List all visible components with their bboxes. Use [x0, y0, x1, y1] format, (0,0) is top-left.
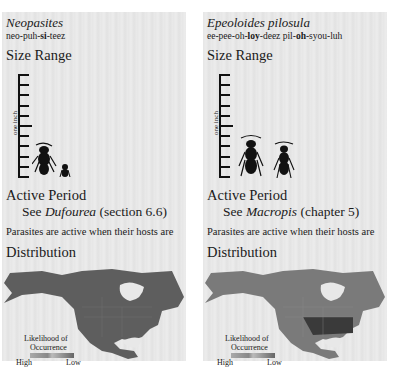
map-legend: Likelihood of Occurrence High Low: [209, 334, 289, 364]
ruler-tick: [18, 105, 29, 107]
ruler-tick: [219, 145, 230, 147]
pron-part: -teez: [47, 31, 65, 41]
ruler-tick: [219, 176, 230, 178]
ruler-tick: [219, 135, 230, 137]
active-period-heading: Active Period: [6, 187, 86, 204]
species-panel-neopasites: Neopasites neo-puh-si-teez Size Range on…: [2, 12, 186, 361]
ruler-tick: [18, 166, 29, 168]
see-genus-link[interactable]: Macropis: [246, 204, 297, 219]
ruler-tick: [219, 105, 230, 107]
ruler-tick: [18, 176, 29, 178]
ruler-tick: [18, 84, 29, 86]
ruler-tick: [219, 166, 230, 168]
ruler-tick: [18, 115, 29, 117]
active-note: Parasites are active when their hosts ar…: [207, 226, 374, 237]
species-name: Neopasites: [6, 15, 63, 31]
species-panel-epeoloides: Epeoloides pilosula ee-pee-oh-loy-deez p…: [203, 12, 387, 361]
see-suffix: (chapter 5): [297, 204, 359, 219]
ruler-label: one inch: [11, 111, 19, 135]
ruler-tick: [18, 74, 29, 76]
see-prefix: See: [223, 204, 246, 219]
see-reference: See Macropis (chapter 5): [223, 204, 359, 220]
pron-part: -deez pil-: [260, 31, 296, 41]
active-note: Parasites are active when their hosts ar…: [6, 226, 173, 237]
pron-part: neo-puh-: [6, 31, 40, 41]
ruler-tick: [18, 135, 29, 137]
ruler-tick: [219, 115, 230, 117]
legend-low: Low: [267, 358, 282, 367]
ruler-tick: [18, 156, 29, 158]
pron-part: -syou-luh: [306, 31, 342, 41]
ruler-label: one inch: [212, 111, 220, 135]
active-period-heading: Active Period: [207, 187, 287, 204]
ruler-tick: [219, 74, 230, 76]
ruler-tick: [219, 156, 230, 158]
bee-silhouette-female-icon: [32, 142, 92, 182]
pronunciation: neo-puh-si-teez: [6, 31, 65, 41]
legend-high: High: [16, 358, 32, 367]
pronunciation: ee-pee-oh-loy-deez pil-oh-syou-luh: [207, 31, 342, 41]
ruler-tick: [219, 94, 230, 96]
size-range-heading: Size Range: [207, 47, 273, 64]
ruler-tick: [219, 125, 233, 127]
see-reference: See Dufourea (section 6.6): [22, 204, 167, 220]
distribution-heading: Distribution: [207, 244, 277, 261]
ruler-tick: [18, 125, 32, 127]
species-name: Epeoloides pilosula: [207, 15, 310, 31]
ruler-tick: [219, 84, 230, 86]
map-legend: Likelihood of Occurrence High Low: [8, 334, 88, 364]
legend-title-2: Occurrence: [231, 343, 268, 352]
ruler-tick: [18, 94, 29, 96]
ruler-tick: [18, 145, 29, 147]
see-genus-link[interactable]: Dufourea: [45, 204, 96, 219]
bee-silhouette-pair-icon: [237, 134, 307, 182]
legend-title-2: Occurrence: [30, 343, 67, 352]
size-range-heading: Size Range: [6, 47, 72, 64]
pron-part: ee-pee-oh-: [207, 31, 248, 41]
legend-title-1: Likelihood of: [225, 334, 269, 343]
pron-stress: oh: [296, 31, 306, 41]
legend-high: High: [217, 358, 233, 367]
distribution-heading: Distribution: [6, 244, 76, 261]
see-suffix: (section 6.6): [96, 204, 167, 219]
see-prefix: See: [22, 204, 45, 219]
legend-title-1: Likelihood of: [24, 334, 68, 343]
legend-low: Low: [66, 358, 81, 367]
pron-stress: loy: [248, 31, 260, 41]
